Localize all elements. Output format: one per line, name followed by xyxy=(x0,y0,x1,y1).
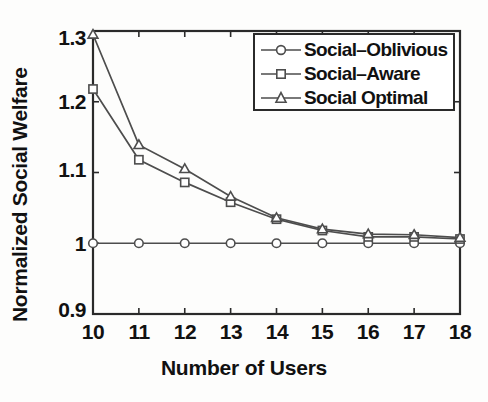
data-point-marker xyxy=(272,239,281,248)
data-point-marker xyxy=(181,178,189,186)
circle-marker-icon xyxy=(260,40,302,60)
x-axis-title: Number of Users xyxy=(0,356,488,380)
data-point-marker xyxy=(318,239,327,248)
data-point-marker xyxy=(134,140,144,149)
x-tick-label: 14 xyxy=(257,320,297,344)
x-tick-label: 16 xyxy=(348,320,388,344)
x-tick-label: 10 xyxy=(73,320,113,344)
data-point-marker xyxy=(135,239,144,248)
legend-label: Social Optimal xyxy=(304,87,428,109)
x-tick-label: 12 xyxy=(165,320,205,344)
data-point-marker xyxy=(226,239,235,248)
legend-item-social-aware[interactable]: Social–Aware xyxy=(255,62,453,86)
series-social-oblivious xyxy=(89,239,465,248)
x-tick-label: 13 xyxy=(211,320,251,344)
legend-label: Social–Aware xyxy=(304,63,420,85)
x-tick-label: 17 xyxy=(394,320,434,344)
data-point-marker xyxy=(89,85,97,93)
triangle-marker-icon xyxy=(260,88,302,108)
data-point-marker xyxy=(135,156,143,164)
data-point-marker xyxy=(180,239,189,248)
legend-item-social-oblivious[interactable]: Social–Oblivious xyxy=(255,38,453,62)
legend-item-social-optimal[interactable]: Social Optimal xyxy=(255,86,453,110)
x-tick-label: 15 xyxy=(302,320,342,344)
square-marker-icon xyxy=(260,64,302,84)
data-point-marker xyxy=(226,192,236,201)
data-point-marker xyxy=(180,164,190,173)
x-tick-label: 18 xyxy=(440,320,480,344)
y-tick-label: 1.3 xyxy=(6,26,86,50)
x-tick-label: 11 xyxy=(119,320,159,344)
data-point-marker xyxy=(89,239,98,248)
legend-box: Social–Oblivious Social–Aware Social Opt… xyxy=(253,33,455,111)
y-axis-title: Normalized Social Welfare xyxy=(8,67,32,322)
legend-label: Social–Oblivious xyxy=(304,39,448,61)
chart-figure: 1.3 1.2 1.1 1 0.9 10 11 12 13 14 15 16 1… xyxy=(0,0,488,402)
